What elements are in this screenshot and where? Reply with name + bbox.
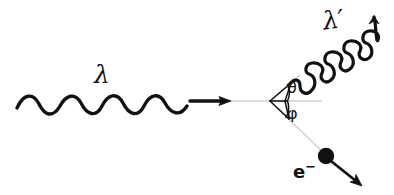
scatter-angle-label: θ	[287, 80, 297, 96]
scattered-photon-label: λ′	[321, 6, 346, 34]
incident-photon-label: λ	[94, 62, 110, 87]
incident-direction-arrowhead	[219, 97, 231, 106]
electron-label: e−	[293, 163, 316, 181]
compton-scattering-figure: λ λ′ θ φ e−	[0, 0, 394, 195]
electron-charge-superscript: −	[305, 159, 316, 174]
recoil-angle-label: φ	[287, 106, 298, 122]
recoil-electron-arrow-shaft	[331, 161, 356, 181]
incident-photon-wave	[17, 96, 187, 114]
electron-label-symbol: e	[293, 161, 305, 182]
